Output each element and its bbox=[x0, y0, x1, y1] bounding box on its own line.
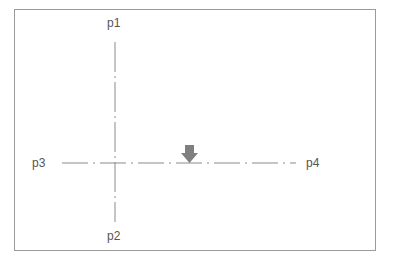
point-label-p1: p1 bbox=[107, 17, 120, 29]
point-label-p4: p4 bbox=[306, 157, 319, 169]
point-label-p3: p3 bbox=[32, 157, 45, 169]
down-arrow-icon bbox=[181, 145, 198, 163]
diagram-canvas bbox=[0, 0, 394, 261]
point-label-p2: p2 bbox=[107, 230, 120, 242]
